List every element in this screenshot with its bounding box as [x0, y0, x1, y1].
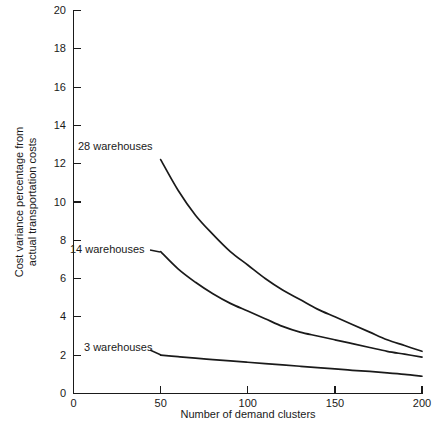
y-tick-label: 6: [60, 272, 66, 284]
y-tick-label: 20: [54, 4, 66, 16]
y-tick-label: 18: [54, 42, 66, 54]
series-label-28: 28 warehouses: [78, 140, 153, 152]
y-tick-label: 12: [54, 157, 66, 169]
y-tick-label: 4: [60, 310, 66, 322]
y-tick-label: 10: [54, 196, 66, 208]
y-tick-label: 16: [54, 81, 66, 93]
y-tick-label: 2: [60, 349, 66, 361]
y-axis-title-line1: Cost variance percentage from: [13, 127, 25, 277]
x-tick-label: 200: [413, 397, 431, 409]
series-label-28-text: 28 warehouses: [78, 140, 153, 152]
cost-variance-line-chart: 20 18 16 14 12 10 8 6 4 2 0 0 50 100 150…: [0, 0, 446, 422]
series-label-14-text: 14 warehouses: [70, 243, 145, 255]
y-axis-title-line2: actual transportation costs: [26, 137, 38, 266]
series-label-3-text: 3 warehouses: [84, 341, 153, 353]
x-tick-label: 0: [70, 397, 76, 409]
y-tick-label: 8: [60, 234, 66, 246]
y-axis-title: Cost variance percentage from actual tra…: [13, 127, 38, 277]
series-label-3: 3 warehouses: [84, 341, 161, 355]
y-tick-label: 14: [54, 119, 66, 131]
chart-background: [0, 0, 446, 422]
x-axis-title: Number of demand clusters: [180, 408, 316, 420]
x-tick-label: 150: [326, 397, 344, 409]
y-tick-label: 0: [60, 387, 66, 399]
x-tick-label: 50: [155, 397, 167, 409]
